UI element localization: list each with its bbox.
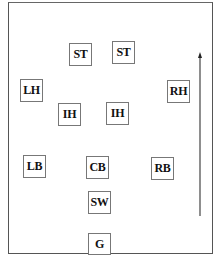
position-label: RH	[170, 84, 187, 99]
position-label: ST	[73, 47, 87, 62]
direction-arrow-icon	[198, 52, 202, 216]
position-label: LH	[23, 83, 40, 98]
position-label: CB	[89, 160, 105, 175]
position-g: G	[88, 233, 111, 255]
position-label: SW	[90, 195, 108, 210]
position-label: IH	[63, 107, 76, 122]
position-lh: LH	[20, 79, 43, 102]
position-ih-left: IH	[58, 103, 81, 126]
position-label: ST	[116, 45, 130, 60]
position-st-left: ST	[69, 43, 92, 66]
position-st-right: ST	[112, 41, 135, 64]
position-label: IH	[111, 106, 124, 121]
position-sw: SW	[88, 191, 111, 214]
position-label: LB	[27, 159, 42, 174]
position-cb: CB	[86, 156, 109, 179]
position-ih-right: IH	[106, 102, 129, 125]
position-rh: RH	[167, 80, 190, 103]
position-label: RB	[154, 161, 170, 176]
position-lb: LB	[23, 155, 46, 178]
position-rb: RB	[151, 157, 174, 180]
field-outline	[8, 2, 213, 254]
position-label: G	[95, 237, 104, 252]
